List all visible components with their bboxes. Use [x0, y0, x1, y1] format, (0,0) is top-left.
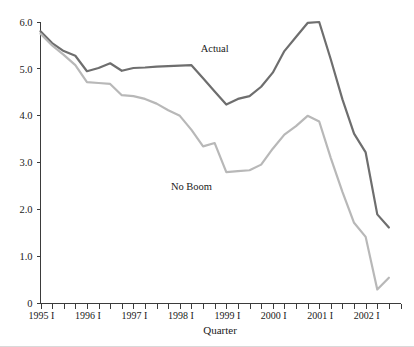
y-tick-label: 6.0	[19, 17, 32, 28]
x-tick-marks	[42, 304, 402, 309]
y-tick-label: 2.0	[19, 204, 32, 215]
y-tick-label: 1.0	[19, 251, 32, 262]
chart-figure: 01.02.03.04.05.06.0 1995 I1996 I1997 I19…	[0, 0, 414, 347]
x-tick-label: 1995 I	[29, 310, 55, 321]
x-tick-label: 1996 I	[75, 310, 101, 321]
series-label-actual: Actual	[201, 43, 229, 54]
y-tick-label: 5.0	[19, 64, 32, 75]
x-tick-label: 1997 I	[121, 310, 147, 321]
x-axis-group: 1995 I1996 I1997 I1998 I1999 I2000 I2001…	[29, 304, 402, 321]
x-tick-label: 1998 I	[168, 310, 194, 321]
y-tick-labels: 01.02.03.04.05.06.0	[19, 17, 32, 310]
y-axis-group: 01.02.03.04.05.06.0	[19, 17, 40, 310]
line-chart: 01.02.03.04.05.06.0 1995 I1996 I1997 I19…	[0, 0, 414, 347]
y-tick-label: 4.0	[19, 110, 32, 121]
y-tick-label: 0	[27, 298, 32, 309]
x-tick-label: 2001 I	[307, 310, 333, 321]
y-tick-label: 3.0	[19, 157, 32, 168]
x-tick-label: 2000 I	[261, 310, 287, 321]
series-label-no-boom: No Boom	[171, 181, 212, 192]
x-tick-labels: 1995 I1996 I1997 I1998 I1999 I2000 I2001…	[29, 310, 380, 321]
x-tick-label: 1999 I	[214, 310, 240, 321]
x-tick-label: 2002 I	[354, 310, 380, 321]
series-lines	[41, 22, 389, 289]
x-axis-title: Quarter	[203, 324, 237, 336]
series-line-no-boom	[41, 34, 389, 290]
y-tick-marks	[37, 22, 41, 304]
